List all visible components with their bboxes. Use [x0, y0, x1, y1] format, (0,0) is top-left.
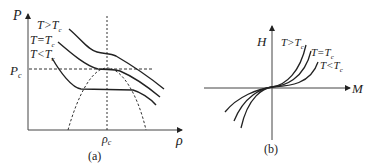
label-b-t-greater-tc: T>Tc: [281, 36, 305, 51]
panel-a: P ρ Pc ρc T>Tc T=Tc T<Tc (a): [9, 8, 183, 163]
label-t-less-tc: T<Tc: [30, 47, 55, 63]
caption-b: (b): [264, 142, 278, 156]
label-b-t-less-tc: T<Tc: [320, 59, 344, 74]
m-axis-label: M: [351, 81, 364, 96]
rho-axis-label: ρ: [175, 133, 183, 148]
label-t-greater-tc: T>Tc: [37, 18, 62, 34]
rhoc-label: ρc: [101, 132, 112, 147]
curve-t-greater-tc: [69, 29, 164, 89]
caption-a: (a): [88, 149, 101, 163]
pc-label: Pc: [9, 63, 22, 80]
p-axis-label: P: [12, 8, 22, 23]
panel-b: H M T>Tc T=Tc T<Tc (b): [204, 26, 364, 156]
figure: P ρ Pc ρc T>Tc T=Tc T<Tc (a) H M T>Tc T=…: [0, 0, 376, 166]
h-axis-label: H: [256, 34, 267, 49]
